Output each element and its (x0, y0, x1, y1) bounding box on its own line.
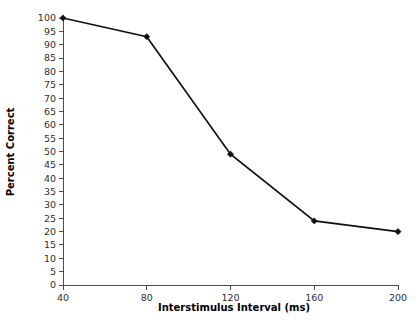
y-tick-label: 85 (44, 52, 56, 63)
y-tick-label: 90 (44, 39, 56, 50)
x-tick-label: 40 (57, 292, 69, 303)
y-tick-label: 5 (50, 266, 56, 277)
y-tick-label: 15 (44, 239, 56, 250)
line-chart-canvas: 0510152025303540455055606570758085909510… (0, 0, 419, 327)
y-tick-label: 80 (44, 66, 56, 77)
y-tick-label: 45 (44, 159, 56, 170)
y-tick-label: 0 (50, 279, 56, 290)
y-tick-label: 75 (44, 79, 56, 90)
y-tick-label: 50 (44, 146, 56, 157)
y-tick-label: 60 (44, 119, 56, 130)
x-axis-title: Interstimulus Interval (ms) (158, 302, 310, 313)
y-tick-label: 25 (44, 213, 56, 224)
y-tick-label: 20 (44, 226, 56, 237)
y-tick-label: 95 (44, 26, 56, 37)
x-tick-label: 200 (389, 292, 407, 303)
y-tick-label: 55 (44, 133, 56, 144)
y-axis-ticks (59, 18, 63, 285)
y-tick-label: 30 (44, 199, 56, 210)
y-tick-label: 70 (44, 93, 56, 104)
y-tick-label: 10 (44, 253, 56, 264)
chart-figure: 0510152025303540455055606570758085909510… (0, 0, 419, 327)
y-tick-label: 65 (44, 106, 56, 117)
y-tick-label: 35 (44, 186, 56, 197)
y-axis-title: Percent Correct (5, 107, 16, 196)
y-tick-label: 100 (38, 12, 56, 23)
y-tick-label: 40 (44, 173, 56, 184)
x-tick-label: 80 (141, 292, 153, 303)
